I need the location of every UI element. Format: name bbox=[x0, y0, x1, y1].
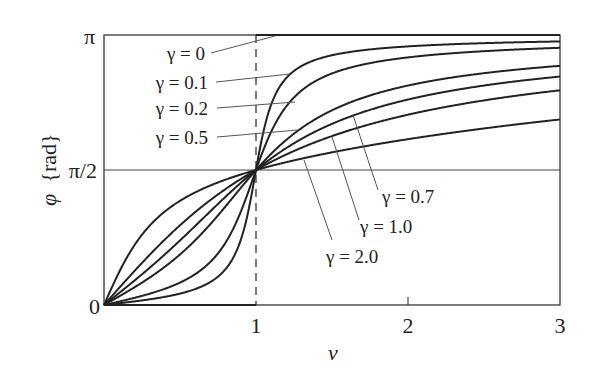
x-tick-label-3: 3 bbox=[555, 313, 566, 338]
phase-response-chart: γ = 0 γ = 0.1 γ = 0.2 γ = 0.5 γ = 0.7 γ … bbox=[0, 0, 599, 377]
label-gamma-1.0: γ = 1.0 bbox=[359, 216, 412, 237]
leader-gamma-0.1 bbox=[216, 74, 290, 82]
leader-gamma-0 bbox=[211, 36, 275, 53]
y-axis-label-phi: φ bbox=[36, 194, 61, 206]
y-tick-label-pi: π bbox=[84, 24, 95, 49]
leader-gamma-2.0 bbox=[304, 160, 332, 240]
label-gamma-0.2: γ = 0.2 bbox=[155, 98, 208, 119]
label-gamma-0.1: γ = 0.1 bbox=[155, 72, 208, 93]
label-gamma-0.7: γ = 0.7 bbox=[381, 186, 434, 207]
leader-gamma-0.5 bbox=[217, 130, 298, 137]
label-gamma-2.0: γ = 2.0 bbox=[325, 246, 378, 267]
y-axis-label-unit: {rad} bbox=[36, 133, 61, 182]
curve-1.0 bbox=[104, 90, 560, 305]
label-gamma-0: γ = 0 bbox=[166, 43, 205, 64]
x-tick-label-2: 2 bbox=[403, 313, 414, 338]
x-tick-label-1: 1 bbox=[251, 313, 262, 338]
y-tick-label-0: 0 bbox=[89, 294, 100, 319]
y-axis-label: φ {rad} bbox=[36, 133, 61, 206]
label-gamma-0.5: γ = 0.5 bbox=[155, 127, 208, 148]
x-axis-label: ν bbox=[328, 340, 338, 365]
y-tick-label-half-pi: π/2 bbox=[69, 158, 97, 183]
